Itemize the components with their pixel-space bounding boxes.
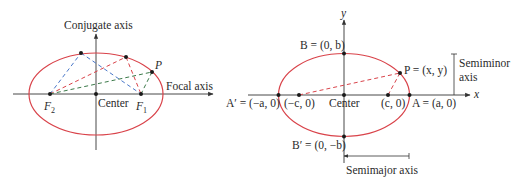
left-center-label: Center (98, 97, 129, 109)
focal-axis-label: Focal axis (166, 80, 213, 92)
f1-label: F1 (135, 100, 147, 115)
a-point (408, 93, 412, 97)
b-prime-label: B′ = (0, −b) (292, 139, 346, 152)
red-dash-f2 (50, 57, 126, 94)
b-label: B = (0, b) (300, 39, 345, 52)
x-axis-label: x (473, 88, 480, 100)
b-prime-point (342, 135, 346, 139)
y-axis-label: y (340, 7, 347, 20)
focus-f1-point (139, 92, 143, 96)
ellipse-diagrams: Conjugate axis Focal axis Center P F2 F1 (0, 0, 518, 187)
red-vertex-point (124, 55, 128, 59)
left-ellipse-diagram: Conjugate axis Focal axis Center P F2 F1 (13, 19, 213, 150)
semiminor-label-line1: Semiminor (459, 57, 510, 69)
f2-label: F2 (43, 100, 55, 115)
b-point (342, 52, 346, 56)
p-point (150, 70, 154, 74)
green-dash-f1 (141, 72, 152, 94)
semimajor-label: Semimajor axis (346, 164, 418, 177)
conjugate-axis-label: Conjugate axis (64, 19, 133, 32)
p-xy-label: P = (x, y) (404, 64, 447, 77)
blue-vertex-point (79, 51, 83, 55)
a-label: A = (a, 0) (412, 97, 456, 110)
c-label: (c, 0) (381, 97, 405, 110)
a-prime-label: A′ = (−a, 0) (226, 97, 280, 110)
neg-c-label: (−c, 0) (284, 97, 315, 110)
p-label: P (154, 59, 162, 71)
right-ellipse-diagram: y x B = (0, b) B′ = (0, −b) A′ = (−a, 0)… (226, 7, 510, 177)
center-point (94, 92, 98, 96)
right-center-label: Center (329, 97, 360, 109)
focal-dash-right (388, 73, 400, 95)
focal-dash-left (299, 73, 400, 95)
semiminor-label-line2: axis (459, 71, 478, 83)
focus-f2-point (48, 92, 52, 96)
p-xy-point (398, 71, 402, 75)
blue-dash-f2 (50, 53, 81, 94)
